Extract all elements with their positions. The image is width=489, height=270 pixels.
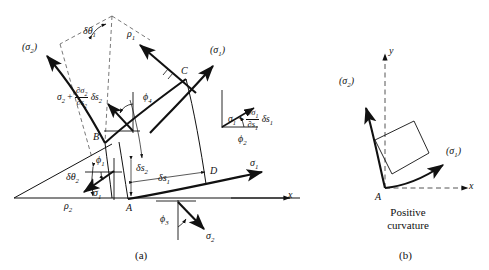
arc-BC	[105, 79, 186, 143]
delta-theta-2-label: δθ2	[66, 172, 79, 185]
positive-curvature-note-line2: curvature	[373, 219, 443, 233]
arc-A-offset	[119, 142, 128, 199]
x-axis-label-b: x	[469, 181, 473, 191]
element-quad	[375, 121, 429, 174]
phi2-label: ϕ2	[238, 134, 247, 147]
point-A-label: A	[126, 203, 132, 213]
delta-theta-1-label: δθ1	[83, 26, 96, 39]
delta-s-2-label: δs2	[136, 163, 148, 176]
rho2-label: ρ2	[64, 201, 72, 214]
phi4-label: ϕ4	[143, 92, 152, 105]
sigma2-incremented-label: σ2 + ∂σ2 ∂s2 δs2	[57, 86, 102, 110]
sigma1-direction-label-b: (σ1)	[446, 146, 461, 159]
sigma2-direction-label-b: (σ2)	[339, 76, 354, 89]
point-C-label: C	[181, 66, 188, 76]
panel-a-caption: (a)	[135, 249, 147, 261]
arc-AD-sigma1	[128, 172, 262, 199]
positive-curvature-note-line1: Positive	[373, 206, 443, 220]
sigma1-incremented-label: σ1 + ∂σ1 ∂s1 δs1	[228, 108, 273, 132]
sigma2-at-A-label: σ2	[206, 231, 214, 244]
rho2-construction	[14, 144, 300, 198]
sigma1-direction-label: (σ1)	[210, 45, 225, 58]
origin-A-label-b: A	[375, 192, 381, 202]
phi3-label: ϕ3	[160, 214, 169, 227]
sigma2-direction-label: (σ2)	[22, 42, 37, 55]
arc-AB	[105, 143, 112, 198]
phi4-group	[104, 92, 140, 133]
delta-s-1-label: δs1	[158, 173, 170, 186]
sigma1-at-B-label: σ1	[93, 188, 101, 201]
sigma1-direction-arrow-b	[385, 165, 443, 188]
sigma1-at-D-label: σ1	[250, 158, 258, 171]
arc-DC	[186, 79, 206, 184]
sigma2-partial-fraction: ∂σ2 ∂s2	[75, 86, 88, 110]
phi1-label: ϕ1	[96, 155, 105, 168]
point-B-label: B	[93, 132, 99, 142]
sigma1-partial-fraction: ∂σ1 ∂s1	[246, 108, 259, 132]
point-D-label: D	[210, 166, 217, 176]
rho1-label: ρ1	[127, 29, 135, 42]
sigma2-direction-arrow-b	[366, 108, 385, 188]
y-axis-label-b: y	[389, 46, 393, 56]
panel-b-graphics	[366, 54, 468, 188]
x-axis-label-a: x	[288, 190, 292, 200]
panel-b-caption: (b)	[399, 249, 412, 261]
figure-root: δθ1 ρ1 (σ2) (σ1) σ2 + ∂σ2 ∂s2 δs2 σ1 + ∂…	[0, 0, 489, 270]
